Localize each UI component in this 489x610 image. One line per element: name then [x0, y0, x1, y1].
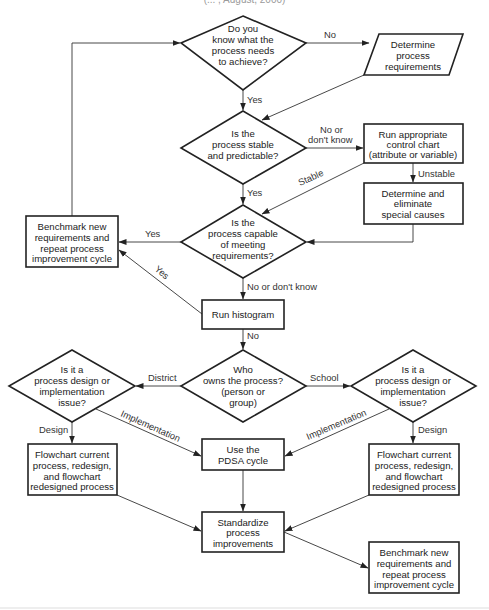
svg-text:process design or: process design or	[34, 375, 111, 386]
svg-text:Is it a: Is it a	[402, 364, 426, 375]
svg-text:process capable: process capable	[208, 228, 278, 239]
svg-text:requirements and: requirements and	[35, 232, 110, 243]
svg-text:Flowchart current: Flowchart current	[377, 449, 451, 460]
svg-text:requirements and: requirements and	[377, 558, 452, 569]
decision-who-owns-process: Who owns the process? (person or group)	[181, 350, 306, 422]
decision-process-capable: Is the process capable of meeting requir…	[181, 205, 306, 278]
svg-text:(person or: (person or	[221, 386, 266, 397]
svg-text:process, redesign,: process, redesign,	[33, 460, 111, 471]
svg-text:implementation: implementation	[39, 386, 104, 397]
svg-text:(attribute or variable): (attribute or variable)	[369, 149, 458, 160]
edge-hist-yes	[119, 250, 202, 314]
svg-text:redesigned process: redesigned process	[372, 481, 456, 492]
svg-text:group): group)	[229, 397, 257, 408]
svg-text:Benchmark new: Benchmark new	[38, 221, 107, 232]
svg-text:improvement cycle: improvement cycle	[32, 253, 112, 264]
svg-text:process stable: process stable	[212, 139, 274, 150]
svg-text:special causes: special causes	[382, 209, 445, 220]
decision-process-stable: Is the process stable and predictable?	[181, 111, 306, 184]
svg-text:Determine: Determine	[391, 39, 435, 50]
svg-text:know what the: know what the	[212, 34, 273, 45]
process-run-histogram: Run histogram	[202, 300, 284, 329]
label-no-or-dont-know: No or don't know	[247, 281, 317, 292]
svg-text:process needs: process needs	[212, 45, 275, 56]
label-design: Design	[39, 424, 68, 435]
process-benchmark-repeat-cycle: Benchmark new requirements and repeat pr…	[369, 542, 459, 593]
svg-text:process, redesign,: process, redesign,	[375, 460, 453, 471]
edge-bench1-to-d1	[72, 43, 180, 216]
process-flowchart-redesign-right: Flowchart current process, redesign, and…	[369, 444, 459, 495]
edge-p1-to-d2	[262, 75, 364, 120]
svg-text:Is the: Is the	[231, 128, 254, 139]
decision-design-or-implementation-district: Is it a process design or implementation…	[9, 350, 135, 422]
edge-fc2-to-std	[285, 495, 369, 531]
svg-text:implementation: implementation	[380, 386, 445, 397]
label-dont-know: don't know	[308, 134, 353, 145]
label-no: No	[247, 330, 259, 341]
edge-fc1-to-std	[117, 495, 201, 531]
svg-text:process design or: process design or	[375, 375, 452, 386]
svg-text:Benchmark new: Benchmark new	[380, 547, 449, 558]
svg-text:to achieve?: to achieve?	[218, 56, 267, 67]
svg-text:and predictable?: and predictable?	[208, 150, 279, 161]
edge-b2-to-d3	[307, 224, 413, 242]
svg-text:PDSA cycle: PDSA cycle	[218, 455, 268, 466]
decision-design-or-implementation-school: Is it a process design or implementation…	[351, 350, 476, 422]
label-yes: Yes	[247, 187, 263, 198]
svg-text:Flowchart current: Flowchart current	[35, 449, 109, 460]
svg-text:issue?: issue?	[58, 397, 86, 408]
process-eliminate-special-causes: Determine and eliminate special causes	[364, 183, 463, 224]
svg-text:requirements?: requirements?	[212, 250, 273, 261]
label-no: No	[324, 29, 336, 40]
svg-text:Is it a: Is it a	[61, 364, 85, 375]
decision-know-process-goal: Do you know what the process needs to ac…	[181, 16, 306, 90]
svg-text:improvement cycle: improvement cycle	[374, 579, 454, 590]
label-implementation: Implementation	[119, 408, 182, 444]
process-use-pdsa-cycle: Use the PDSA cycle	[202, 439, 284, 470]
label-yes: Yes	[247, 94, 263, 105]
process-run-control-chart: Run appropriate control chart (attribute…	[364, 124, 463, 163]
process-standardize-improvements: Standardize process improvements	[202, 512, 284, 552]
svg-text:of meeting: of meeting	[221, 239, 266, 250]
svg-text:eliminate: eliminate	[394, 198, 432, 209]
svg-text:owns the process?: owns the process?	[203, 375, 283, 386]
svg-text:requirements: requirements	[385, 61, 441, 72]
label-school: School	[310, 372, 339, 383]
svg-text:improvements: improvements	[213, 538, 273, 549]
process-flowchart-redesign-left: Flowchart current process, redesign, and…	[28, 444, 117, 495]
svg-text:issue?: issue?	[399, 397, 427, 408]
edge-std-to-bench2	[284, 532, 368, 568]
process-benchmark-new-requirements: Benchmark new requirements and repeat pr…	[26, 216, 118, 267]
label-design: Design	[418, 424, 447, 435]
svg-text:redesigned process: redesigned process	[30, 481, 114, 492]
io-determine-requirements: Determine process requirements	[364, 34, 463, 75]
label-implementation: Implementation	[304, 407, 367, 442]
label-district: District	[148, 372, 177, 383]
svg-text:process: process	[396, 50, 430, 61]
process-flowchart: No Yes No or don't know Yes Unstable Sta…	[0, 0, 489, 610]
label-unstable: Unstable	[418, 168, 455, 179]
label-yes: Yes	[145, 228, 161, 239]
svg-text:Use the: Use the	[226, 444, 259, 455]
svg-text:Run histogram: Run histogram	[212, 309, 274, 320]
label-yes: Yes	[153, 263, 172, 281]
svg-text:process: process	[226, 527, 260, 538]
svg-text:Do you: Do you	[228, 23, 258, 34]
svg-text:Is the: Is the	[231, 217, 254, 228]
svg-text:Who: Who	[233, 364, 253, 375]
